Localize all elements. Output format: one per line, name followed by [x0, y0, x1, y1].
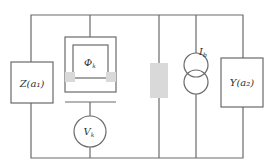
current-source: Ib [184, 46, 208, 94]
voltmeter-label: Vk [84, 126, 95, 138]
impedance-label: Z(a₁) [19, 78, 45, 89]
current-source-label: Ib [198, 46, 207, 58]
circuit-diagram: Z(a₁) Φk Vk Ib Y(a₂) [0, 0, 271, 168]
junction-label: Φk [84, 57, 96, 69]
admittance-box: Y(a₂) [221, 58, 263, 107]
voltmeter: Vk [74, 116, 106, 147]
resistor-block [150, 63, 168, 98]
admittance-label: Y(a₂) [230, 77, 254, 88]
impedance-box: Z(a₁) [11, 62, 53, 103]
wires [31, 15, 243, 158]
junction-symbol: Φk [65, 37, 116, 102]
